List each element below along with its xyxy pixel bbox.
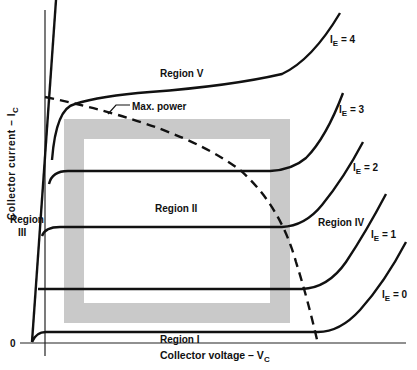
saturation-line bbox=[32, 0, 56, 342]
region-ii-label: Region II bbox=[155, 204, 197, 214]
region-i-label: Region I bbox=[160, 335, 199, 345]
ie-4-label: IE = 4 bbox=[330, 35, 355, 45]
x-axis-label: Collector voltage – VC bbox=[160, 350, 270, 361]
safe-area-frame bbox=[64, 119, 290, 323]
max-power-label: Max. power bbox=[132, 102, 186, 112]
curve-ie-2 bbox=[42, 142, 363, 236]
region-iv-label: Region IV bbox=[318, 218, 364, 228]
ie-0-label: IE = 0 bbox=[382, 290, 407, 300]
transistor-characteristics-diagram bbox=[0, 0, 417, 370]
origin-label: 0 bbox=[10, 339, 16, 349]
curve-ie-1 bbox=[38, 194, 386, 289]
region-iii-label-line1: Region bbox=[10, 215, 44, 225]
ie-1-label: IE = 1 bbox=[371, 230, 396, 240]
region-iii-label-line2: III bbox=[18, 228, 26, 238]
region-v-label: Region V bbox=[160, 69, 203, 79]
ie-3-label: IE = 3 bbox=[339, 105, 364, 115]
y-axis-label: Collector current – IC bbox=[6, 107, 17, 220]
ie-2-label: IE = 2 bbox=[353, 163, 378, 173]
